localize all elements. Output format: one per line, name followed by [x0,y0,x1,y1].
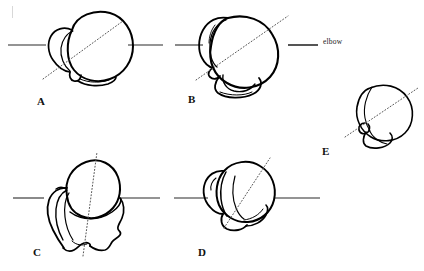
panel-a-jaw-outline [70,72,81,81]
panel-c-axis-line [83,152,97,256]
scan-edge-artifact [12,6,13,18]
panel-label-c: C [33,247,41,258]
panel-e-group [345,85,418,148]
panel-label-b: B [188,94,196,105]
panel-b-cranium-outline [210,16,278,87]
panel-d-group [174,158,320,230]
panel-c-occipital-flap-outer [48,188,67,248]
panel-c-group [13,152,160,256]
panel-d-eye-crease [211,178,216,190]
figure-drawing [0,0,424,271]
panel-b-group [175,16,318,98]
panel-label-a: A [37,96,45,107]
panel-a-group [8,12,163,86]
panel-b-frontal-flap-outline [199,18,228,68]
panel-label-d: D [198,247,206,258]
panel-a-cranium-outline [68,12,133,81]
panel-c-occipital-flap-inner [65,193,73,240]
figure-canvas: A B C D E elbow [0,0,424,271]
panel-b-trunk-lower-line [220,92,252,95]
panel-c-cranium-outline [66,160,120,218]
elbow-annotation-label: elbow [323,38,342,46]
panel-d-suture-line [233,176,244,219]
panel-a-axis-line [43,21,123,79]
panel-label-e: E [322,146,330,157]
